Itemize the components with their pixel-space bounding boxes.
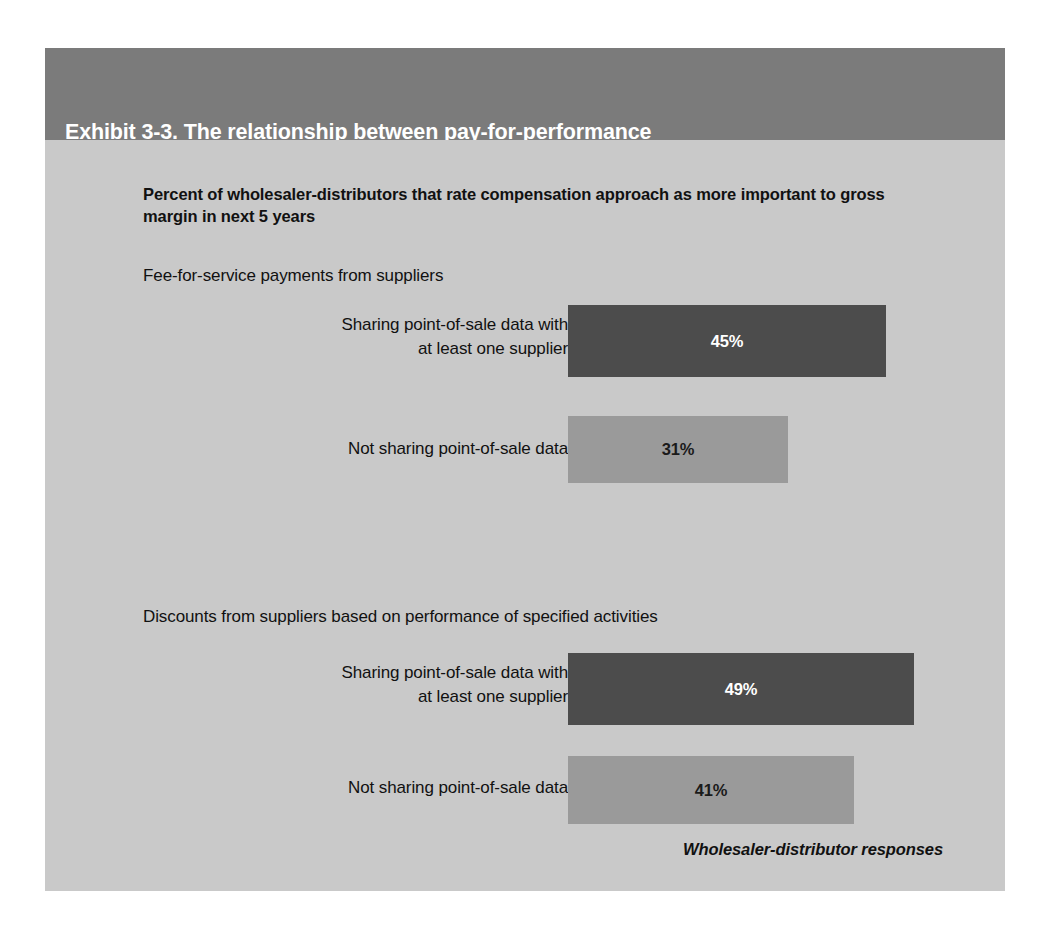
bar-value-4: 41% (695, 781, 728, 800)
bar-sharing-discounts: 49% (568, 653, 914, 725)
source-note: Wholesaler-distributor responses (683, 840, 943, 859)
bar-value-1: 45% (711, 332, 744, 351)
bar-label-4: Not sharing point-of-sale data (125, 776, 568, 800)
bar-label-1: Sharing point-of-sale data with at least… (125, 313, 568, 361)
bar-sharing-fee-for-service: 45% (568, 305, 886, 377)
bar-not-sharing-discounts: 41% (568, 756, 854, 824)
exhibit-page: Exhibit 3-3. The relationship between pa… (0, 0, 1045, 941)
exhibit-body: Percent of wholesaler-distributors that … (45, 140, 1005, 891)
bar-label-4-line-1: Not sharing point-of-sale data (348, 778, 568, 797)
group-label-discounts: Discounts from suppliers based on perfor… (143, 607, 658, 627)
group-label-fee-for-service: Fee-for-service payments from suppliers (143, 266, 443, 286)
bar-value-3: 49% (725, 680, 758, 699)
bar-label-2-line-1: Not sharing point-of-sale data (348, 439, 568, 458)
exhibit-header-band: Exhibit 3-3. The relationship between pa… (45, 48, 1005, 140)
bar-not-sharing-fee-for-service: 31% (568, 416, 788, 483)
bar-label-3-line-2: at least one supplier (418, 687, 568, 706)
bar-label-3: Sharing point-of-sale data with at least… (125, 661, 568, 709)
bar-label-1-line-2: at least one supplier (418, 339, 568, 358)
bar-label-2: Not sharing point-of-sale data (125, 437, 568, 461)
chart-subtitle: Percent of wholesaler-distributors that … (143, 183, 943, 227)
exhibit-panel: Exhibit 3-3. The relationship between pa… (45, 48, 1005, 891)
bar-value-2: 31% (662, 440, 695, 459)
bar-label-1-line-1: Sharing point-of-sale data with (341, 315, 568, 334)
bar-label-3-line-1: Sharing point-of-sale data with (341, 663, 568, 682)
